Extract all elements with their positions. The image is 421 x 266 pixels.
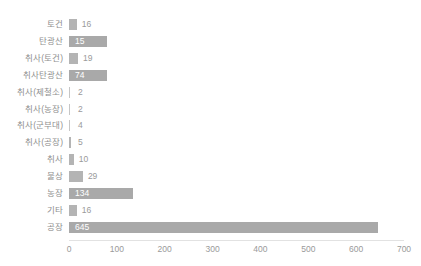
- bar-value-label: 10: [79, 151, 88, 168]
- category-label: 취사(군부대): [0, 117, 63, 134]
- bar-value-label: 74: [75, 70, 84, 81]
- bar[interactable]: [69, 19, 77, 30]
- chart-row[interactable]: 취사10: [0, 151, 421, 168]
- bar-value-label: 134: [75, 188, 89, 199]
- x-tick-label: 600: [336, 243, 376, 255]
- bar-value-label: 645: [75, 222, 89, 233]
- x-tick-label: 200: [145, 243, 185, 255]
- x-tick-label: 700: [384, 243, 421, 255]
- x-tick-label: 500: [288, 243, 328, 255]
- chart-row[interactable]: 취사(공장)5: [0, 134, 421, 151]
- bar-value-label: 19: [83, 50, 92, 67]
- chart-row[interactable]: 취사(토건)19: [0, 50, 421, 67]
- plot-area: 토건16탄광산15취사(토건)19취사탄광산74취사(제철소)2취사(농장)2취…: [0, 16, 421, 240]
- bar[interactable]: [69, 222, 378, 233]
- chart-row[interactable]: 불상29: [0, 168, 421, 185]
- bar[interactable]: [69, 104, 70, 115]
- chart-row[interactable]: 농장134: [0, 185, 421, 202]
- bar-value-label: 4: [78, 117, 83, 134]
- category-label: 취사(공장): [0, 134, 63, 151]
- chart-row[interactable]: 취사(제철소)2: [0, 84, 421, 101]
- category-label: 농장: [0, 185, 63, 202]
- category-label: 취사(농장): [0, 101, 63, 118]
- x-tick-label: 100: [97, 243, 137, 255]
- category-label: 탄광산: [0, 33, 63, 50]
- bar-value-label: 16: [82, 202, 91, 219]
- bar-value-label: 16: [82, 16, 91, 33]
- category-label: 토건: [0, 16, 63, 33]
- bar[interactable]: [69, 53, 78, 64]
- chart-title-strip: [0, 0, 421, 5]
- x-tick-label: 400: [240, 243, 280, 255]
- category-label: 공장: [0, 219, 63, 236]
- bar[interactable]: [69, 120, 70, 131]
- chart-row[interactable]: 취사(군부대)4: [0, 117, 421, 134]
- chart-row[interactable]: 탄광산15: [0, 33, 421, 50]
- bar-chart: 토건16탄광산15취사(토건)19취사탄광산74취사(제철소)2취사(농장)2취…: [0, 0, 421, 266]
- bar-value-label: 15: [75, 36, 84, 47]
- category-label: 취사탄광산: [0, 67, 63, 84]
- bar-value-label: 2: [78, 84, 83, 101]
- x-tick-label: 0: [49, 243, 89, 255]
- bar[interactable]: [69, 171, 83, 182]
- category-label: 기타: [0, 202, 63, 219]
- chart-row[interactable]: 취사(농장)2: [0, 101, 421, 118]
- bar-value-label: 5: [78, 134, 83, 151]
- bar[interactable]: [69, 154, 74, 165]
- category-label: 취사: [0, 151, 63, 168]
- bar[interactable]: [69, 205, 77, 216]
- category-label: 취사(제철소): [0, 84, 63, 101]
- bar[interactable]: [69, 137, 71, 148]
- chart-row[interactable]: 취사탄광산74: [0, 67, 421, 84]
- bar-value-label: 2: [78, 101, 83, 118]
- x-axis-line: [69, 240, 404, 241]
- bar[interactable]: [69, 87, 70, 98]
- chart-row[interactable]: 기타16: [0, 202, 421, 219]
- chart-row[interactable]: 토건16: [0, 16, 421, 33]
- x-tick-label: 300: [193, 243, 233, 255]
- category-label: 불상: [0, 168, 63, 185]
- bar-value-label: 29: [88, 168, 97, 185]
- category-label: 취사(토건): [0, 50, 63, 67]
- chart-row[interactable]: 공장645: [0, 219, 421, 236]
